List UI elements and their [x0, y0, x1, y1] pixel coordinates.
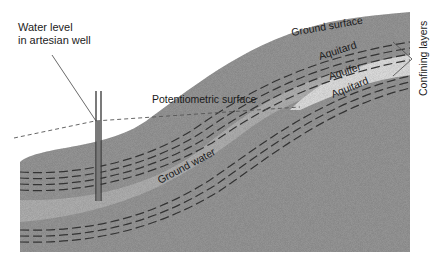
well-label-leader	[52, 55, 96, 121]
label-potentiometric-surface: Potentiometric surface	[152, 93, 257, 105]
label-in-artesian-well: in artesian well	[18, 34, 91, 46]
artesian-well	[96, 91, 101, 201]
label-water-level: Water level	[18, 21, 73, 33]
artesian-well-diagram: Water level in artesian well Potentiomet…	[0, 0, 433, 268]
label-confining-layers: Confining layers	[417, 21, 429, 96]
